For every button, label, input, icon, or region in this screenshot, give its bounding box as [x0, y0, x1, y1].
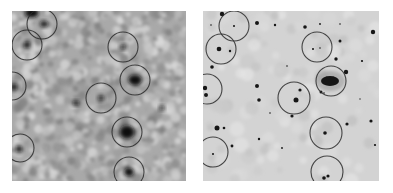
- source-blob: [16, 146, 23, 153]
- source-blob: [120, 125, 135, 139]
- star: [274, 24, 276, 26]
- star: [210, 24, 212, 26]
- star: [217, 47, 222, 52]
- star: [204, 93, 208, 97]
- star: [312, 48, 314, 50]
- star: [319, 47, 321, 49]
- star: [339, 40, 342, 43]
- star: [286, 65, 288, 67]
- star: [233, 25, 235, 27]
- star: [298, 88, 301, 91]
- source-blob: [128, 75, 142, 86]
- star: [345, 122, 348, 125]
- galaxy: [321, 76, 339, 86]
- source-blob: [72, 101, 80, 106]
- star: [322, 176, 326, 180]
- right-sky-image: [203, 11, 379, 181]
- star: [223, 127, 226, 130]
- star: [269, 112, 271, 114]
- star: [326, 174, 329, 177]
- star: [255, 21, 259, 25]
- star: [319, 23, 321, 25]
- star: [257, 98, 261, 102]
- left-sky-canvas: [12, 11, 186, 181]
- star: [323, 131, 327, 135]
- star: [339, 23, 341, 25]
- star: [281, 147, 283, 149]
- star: [294, 98, 299, 103]
- star: [371, 30, 375, 34]
- star: [334, 57, 337, 60]
- star: [361, 60, 363, 62]
- star: [229, 50, 231, 52]
- source-blob: [124, 168, 134, 177]
- star: [369, 119, 372, 122]
- star: [231, 145, 234, 148]
- star: [303, 25, 307, 29]
- source-blob: [98, 95, 104, 101]
- right-sky-canvas: [203, 11, 379, 181]
- star: [210, 65, 214, 69]
- star: [215, 126, 220, 131]
- star: [359, 98, 360, 99]
- star: [255, 84, 259, 88]
- source-blob: [120, 45, 126, 50]
- source-blob: [160, 106, 165, 111]
- star: [212, 153, 214, 155]
- star: [290, 114, 293, 117]
- star: [203, 86, 207, 90]
- source-blob: [40, 21, 48, 27]
- source-blob: [24, 42, 31, 49]
- left-sky-image: [12, 11, 186, 181]
- star: [374, 144, 376, 146]
- star: [258, 138, 260, 140]
